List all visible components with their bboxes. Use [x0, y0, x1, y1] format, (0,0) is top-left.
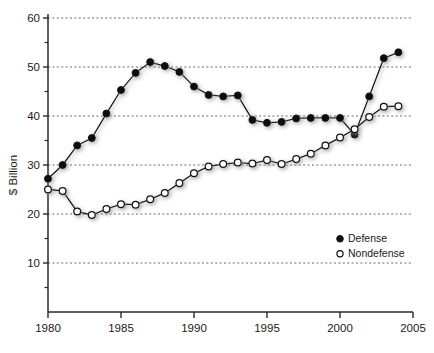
data-point-defense: [307, 114, 314, 121]
data-point-defense: [366, 93, 373, 100]
data-point-defense: [88, 135, 95, 142]
data-point-defense: [220, 93, 227, 100]
data-point-nondefense: [220, 161, 227, 168]
data-series: [45, 49, 402, 219]
data-point-defense: [322, 114, 329, 121]
data-point-nondefense: [234, 159, 241, 166]
y-tick-label: 40: [27, 110, 40, 122]
data-point-defense: [380, 55, 387, 62]
x-tick-label: 2005: [400, 322, 426, 334]
gridlines: [48, 18, 413, 263]
data-point-defense: [191, 83, 198, 90]
data-point-defense: [74, 142, 81, 149]
data-point-nondefense: [147, 196, 154, 203]
data-point-defense: [147, 59, 154, 66]
data-point-nondefense: [351, 126, 358, 133]
data-point-nondefense: [293, 156, 300, 163]
data-point-defense: [132, 69, 139, 76]
data-point-defense: [205, 91, 212, 98]
series-line-defense: [48, 52, 398, 178]
x-tick-label: 1985: [108, 322, 134, 334]
legend-marker-nondefense: [337, 251, 343, 257]
data-point-defense: [118, 87, 125, 94]
x-tick-label: 1995: [254, 322, 280, 334]
data-point-nondefense: [118, 201, 125, 208]
x-tick-label: 1980: [35, 322, 61, 334]
data-point-nondefense: [366, 114, 373, 121]
y-tick-label: 50: [27, 61, 40, 73]
data-point-nondefense: [264, 157, 271, 164]
y-tick-label: 60: [27, 12, 40, 24]
data-point-defense: [264, 119, 271, 126]
data-point-nondefense: [103, 206, 110, 213]
y-tick-label: 30: [27, 159, 40, 171]
legend-label-defense: Defense: [348, 232, 387, 244]
data-point-nondefense: [176, 180, 183, 187]
data-point-nondefense: [59, 188, 66, 195]
data-point-nondefense: [88, 212, 95, 219]
data-point-nondefense: [205, 163, 212, 170]
data-point-nondefense: [45, 186, 52, 193]
x-tick-label: 2000: [327, 322, 353, 334]
data-point-defense: [45, 175, 52, 182]
data-point-defense: [59, 162, 66, 169]
data-point-nondefense: [337, 134, 344, 141]
y-tick-label: 20: [27, 208, 40, 220]
data-point-nondefense: [249, 160, 256, 167]
data-point-defense: [395, 49, 402, 56]
data-point-nondefense: [380, 103, 387, 110]
legend-marker-defense: [337, 236, 344, 243]
chart-container: 102030405060 198019851990199520002005 De…: [0, 0, 434, 353]
chart-legend: DefenseNondefense: [337, 232, 405, 259]
data-point-nondefense: [278, 161, 285, 168]
data-point-defense: [103, 110, 110, 117]
y-axis: 102030405060: [27, 12, 48, 312]
data-point-nondefense: [74, 208, 81, 215]
y-tick-label: 10: [27, 257, 40, 269]
data-point-nondefense: [395, 103, 402, 110]
data-point-defense: [176, 68, 183, 75]
x-tick-label: 1990: [181, 322, 207, 334]
data-point-defense: [278, 118, 285, 125]
data-point-defense: [293, 115, 300, 122]
data-point-defense: [234, 92, 241, 99]
data-point-defense: [249, 116, 256, 123]
data-point-nondefense: [161, 190, 168, 197]
data-point-defense: [337, 114, 344, 121]
data-point-nondefense: [132, 201, 139, 208]
data-point-nondefense: [307, 150, 314, 157]
legend-label-nondefense: Nondefense: [348, 247, 405, 259]
line-chart: 102030405060 198019851990199520002005 De…: [0, 0, 434, 353]
x-axis: 198019851990199520002005: [35, 312, 426, 334]
data-point-defense: [161, 63, 168, 70]
y-axis-label: $ Billion: [7, 155, 19, 195]
data-point-nondefense: [322, 142, 329, 149]
data-point-nondefense: [191, 170, 198, 177]
